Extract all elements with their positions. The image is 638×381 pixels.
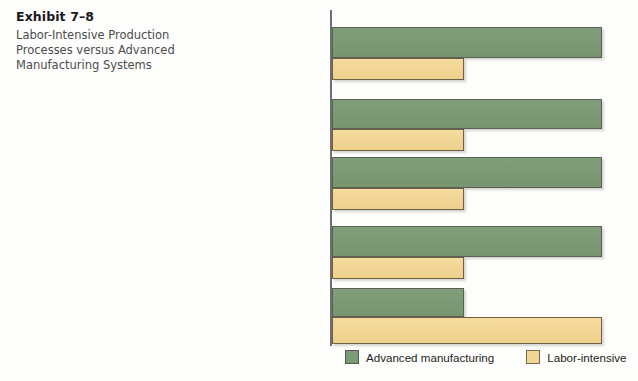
legend-item-advanced-manufacturing[interactable]: Advanced manufacturing (345, 350, 494, 364)
bar-advanced-manufacturing-1 (332, 99, 602, 129)
bar-advanced-manufacturing-0 (332, 27, 602, 58)
exhibit-page: Exhibit 7–8 Labor-Intensive Production P… (0, 0, 638, 381)
chart-legend: Advanced manufacturing Labor-intensive (345, 350, 627, 364)
bar-advanced-manufacturing-3 (332, 226, 602, 257)
bar-advanced-manufacturing-2 (332, 157, 602, 188)
legend-item-labor-intensive[interactable]: Labor-intensive (526, 350, 626, 364)
bar-chart: Proportion of fixed costs in cost struct… (0, 0, 638, 381)
bar-labor-intensive-0 (332, 58, 464, 80)
legend-label-labor-intensive: Labor-intensive (547, 351, 626, 364)
green-swatch-icon (345, 350, 359, 364)
legend-label-advanced-manufacturing: Advanced manufacturing (366, 351, 494, 364)
bar-advanced-manufacturing-4 (332, 288, 464, 317)
bar-labor-intensive-3 (332, 257, 464, 279)
bar-labor-intensive-2 (332, 188, 464, 210)
bar-labor-intensive-4 (332, 317, 602, 344)
bar-labor-intensive-1 (332, 129, 464, 151)
yellow-swatch-icon (526, 350, 540, 364)
